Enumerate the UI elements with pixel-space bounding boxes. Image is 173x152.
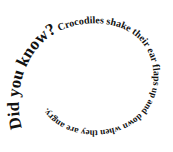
spiral-body-inner: up and down when they are angry. <box>41 85 161 138</box>
spiral-svg: Did you know? Crocodiles shake their ear… <box>0 0 173 152</box>
spiral-text: Did you know? Crocodiles shake their ear… <box>4 14 163 138</box>
spiral-body-outer: Crocodiles shake their ear flaps <box>53 14 163 86</box>
spiral-text-graphic: Did you know? Crocodiles shake their ear… <box>0 0 173 152</box>
